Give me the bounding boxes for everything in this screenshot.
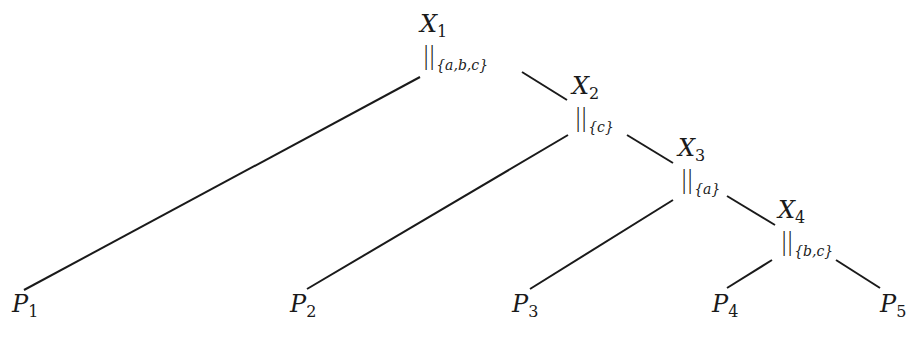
node-subscript: 3 (695, 146, 705, 165)
node-name: X (420, 10, 437, 38)
sync-set: {b,c} (794, 243, 833, 259)
edge-x2-p2 (307, 135, 568, 289)
leaf-name: P (880, 290, 896, 318)
edge-x3-p3 (530, 200, 673, 289)
leaf-label-p2: P2 (290, 292, 316, 320)
sync-set: {a,b,c} (436, 57, 488, 73)
edge-x2-x3 (627, 135, 673, 163)
parallel-operator-x4: ||{b,c} (780, 230, 833, 258)
edge-x4-p4 (727, 260, 772, 288)
edge-x1-x2 (522, 72, 567, 100)
leaf-name: P (512, 290, 528, 318)
sync-set: {a} (694, 181, 720, 197)
node-label-x1: X1 (420, 12, 447, 40)
parallel-bars-symbol: || (780, 228, 792, 256)
leaf-subscript: 5 (896, 302, 906, 321)
parallel-bars-symbol: || (574, 104, 586, 132)
leaf-name: P (290, 290, 306, 318)
leaf-subscript: 1 (28, 302, 38, 321)
parallel-bars-symbol: || (680, 166, 692, 194)
leaf-name: P (12, 290, 28, 318)
node-label-x3: X3 (678, 136, 705, 164)
node-label-x4: X4 (778, 198, 805, 226)
parallel-bars-symbol: || (422, 42, 434, 70)
leaf-label-p3: P3 (512, 292, 538, 320)
node-subscript: 1 (437, 22, 447, 41)
parallel-operator-x1: ||{a,b,c} (422, 44, 488, 72)
edge-x4-p5 (836, 260, 880, 288)
leaf-label-p4: P4 (712, 292, 738, 320)
edge-x3-x4 (727, 196, 775, 225)
leaf-name: P (712, 290, 728, 318)
node-name: X (572, 72, 589, 100)
parallel-composition-tree: X1||{a,b,c}X2||{c}X3||{a}X4||{b,c}P1P2P3… (0, 0, 916, 349)
node-subscript: 2 (589, 84, 599, 103)
leaf-label-p5: P5 (880, 292, 906, 320)
node-name: X (678, 134, 695, 162)
parallel-operator-x3: ||{a} (680, 168, 720, 196)
leaf-subscript: 4 (728, 302, 738, 321)
leaf-label-p1: P1 (12, 292, 38, 320)
node-subscript: 4 (795, 208, 805, 227)
leaf-subscript: 3 (528, 302, 538, 321)
node-name: X (778, 196, 795, 224)
sync-set: {c} (588, 119, 614, 135)
node-label-x2: X2 (572, 74, 599, 102)
leaf-subscript: 2 (306, 302, 316, 321)
parallel-operator-x2: ||{c} (574, 106, 614, 134)
